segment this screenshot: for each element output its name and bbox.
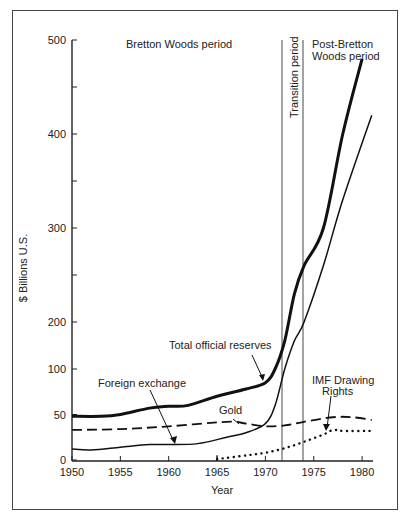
x-tick-label: 1975 — [302, 466, 326, 478]
post-bretton-label-2: Woods period — [312, 50, 380, 62]
y-tick-label: 50 — [54, 409, 66, 421]
y-axis-label: $ Billions U.S. — [17, 234, 29, 302]
x-tick-label: 1955 — [108, 466, 132, 478]
x-tick-label: 1960 — [156, 466, 180, 478]
y-tick-label: 400 — [48, 128, 66, 140]
x-tick-label: 1950 — [60, 466, 84, 478]
arrow-total-head — [259, 374, 265, 381]
x-tick-label: 1970 — [253, 466, 277, 478]
reserves-line-chart: 050100200300400500 195019551960196519701… — [0, 0, 406, 514]
post-bretton-label-1: Post-Bretton — [312, 38, 373, 50]
imf-label-2: Rights — [322, 385, 354, 397]
arrow-imf-head — [323, 424, 330, 431]
bretton-woods-label: Bretton Woods period — [126, 38, 232, 50]
total-reserves-label: Total official reserves — [169, 339, 272, 351]
transition-period-label: Transition period — [288, 36, 300, 118]
y-tick-label: 300 — [48, 222, 66, 234]
y-tick-label: 0 — [60, 454, 66, 466]
series-foreign-exchange — [72, 115, 372, 450]
y-tick-label: 100 — [48, 363, 66, 375]
y-tick-label: 500 — [48, 34, 66, 46]
arrow-imf — [327, 396, 331, 428]
gold-label: Gold — [219, 404, 242, 416]
arrow-fx-head — [170, 436, 177, 444]
foreign-exchange-label: Foreign exchange — [98, 377, 186, 389]
x-tick-label: 1965 — [205, 466, 229, 478]
arrow-fx — [150, 390, 174, 442]
x-tick-label: 1980 — [350, 466, 374, 478]
y-tick-label: 200 — [48, 316, 66, 328]
x-axis-label: Year — [211, 484, 234, 496]
series-total-reserves — [72, 59, 362, 417]
